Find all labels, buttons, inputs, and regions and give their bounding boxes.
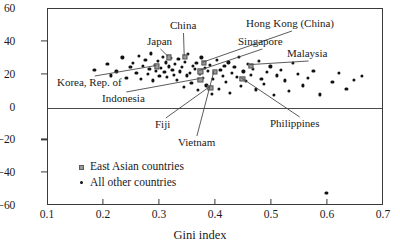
data-point-other (283, 79, 286, 82)
data-point-other (287, 89, 290, 92)
x-axis-tick-label: 0.6 (320, 208, 334, 220)
data-point-other (161, 55, 164, 58)
x-axis-tick-mark (214, 199, 215, 205)
legend-label-east-asian: East Asian countries (90, 160, 184, 172)
x-axis-tick-label: 0.7 (376, 208, 390, 220)
data-point-other (129, 66, 132, 69)
data-point-other (227, 61, 230, 64)
data-point-other (166, 76, 169, 79)
legend-marker-other-countries (80, 181, 83, 184)
data-point-other (345, 87, 348, 90)
data-point-east-asian (198, 69, 203, 74)
data-point-other (195, 62, 198, 65)
annotation-japan: Japan (147, 36, 172, 48)
data-point-other (121, 56, 124, 59)
annotation-china: China (170, 20, 196, 32)
x-axis-label: Gini index (0, 228, 400, 243)
annotation-fiji: Fiji (155, 119, 170, 131)
annotation-korea-rep-of: Korea, Rep. of (57, 77, 122, 89)
data-point-other (190, 81, 193, 84)
data-point-east-asian (155, 64, 160, 69)
x-axis-tick-label: 0.2 (96, 208, 110, 220)
data-point-other (272, 94, 275, 97)
data-point-other (235, 76, 238, 79)
data-point-other (338, 71, 341, 74)
data-point-east-asian (183, 54, 188, 59)
data-point-other (224, 80, 227, 83)
data-point-other (174, 62, 177, 65)
annotation-philippines: Philippines (270, 118, 320, 130)
data-point-other (216, 58, 219, 61)
x-axis-tick-mark (158, 199, 159, 205)
data-point-other (132, 62, 135, 65)
data-point-other (144, 58, 147, 61)
data-point-other (164, 61, 167, 64)
data-point-other (146, 72, 149, 75)
data-point-east-asian (240, 76, 245, 81)
data-point-other (196, 89, 199, 92)
data-point-other (156, 59, 159, 62)
data-point-other (260, 77, 263, 80)
data-point-east-asian (198, 77, 203, 82)
data-point-other (292, 62, 295, 65)
data-point-other (318, 93, 321, 96)
data-point-other (275, 74, 278, 77)
data-point-other (185, 74, 188, 77)
annotation-vietnam: Vietnam (178, 137, 215, 149)
y-axis-tick-label: 60 (4, 2, 15, 14)
data-point-other (242, 70, 245, 73)
data-point-other (207, 69, 210, 72)
data-point-other (171, 68, 174, 71)
data-point-other (182, 85, 185, 88)
data-point-other (237, 55, 240, 58)
data-point-other (160, 67, 163, 70)
data-point-other (296, 72, 299, 75)
data-point-other (279, 68, 282, 71)
data-point-other (223, 64, 226, 67)
x-axis-tick-label: 0.4 (208, 208, 222, 220)
data-point-other (137, 54, 140, 57)
y-axis-tick-label: −40 (0, 166, 15, 178)
x-axis-tick-mark (102, 199, 103, 205)
annotation-singapore: Singapore (238, 36, 283, 48)
data-point-other (139, 77, 142, 80)
data-point-other (254, 88, 257, 91)
data-point-other (142, 64, 145, 67)
data-point-other (257, 59, 260, 62)
data-point-other (233, 66, 236, 69)
data-point-other (125, 76, 128, 79)
data-point-other (93, 68, 96, 71)
data-point-east-asian (248, 63, 253, 68)
data-point-other (240, 85, 243, 88)
y-axis-tick-label: 0 (9, 101, 15, 113)
data-point-other (212, 77, 215, 80)
data-point-other (184, 60, 187, 63)
data-point-other (193, 67, 196, 70)
data-point-other (175, 78, 178, 81)
data-point-other (208, 63, 211, 66)
data-point-other (217, 87, 220, 90)
data-point-other (172, 73, 175, 76)
data-point-other (265, 71, 268, 74)
data-point-other (331, 80, 334, 83)
y-axis-tick-label: 20 (4, 68, 15, 80)
annotation-hong-kong-china: Hong Kong (China) (246, 18, 334, 30)
y-axis-tick-mark (41, 139, 47, 140)
data-point-other (219, 68, 222, 71)
data-point-other (325, 191, 328, 194)
data-point-other (167, 65, 170, 68)
x-axis-tick-label: 0.5 (264, 208, 278, 220)
y-axis-tick-label: −60 (0, 199, 15, 211)
x-axis-tick-label: 0.3 (152, 208, 166, 220)
data-point-other (179, 70, 182, 73)
data-point-other (135, 71, 138, 74)
data-point-other (180, 66, 183, 69)
data-point-other (188, 71, 191, 74)
legend-label-other-countries: All other countries (90, 176, 176, 188)
data-point-other (360, 75, 363, 78)
data-point-other (221, 75, 224, 78)
y-axis-tick-mark (41, 73, 47, 74)
data-point-other (312, 69, 315, 72)
data-point-other (115, 70, 118, 73)
data-point-other (163, 71, 166, 74)
